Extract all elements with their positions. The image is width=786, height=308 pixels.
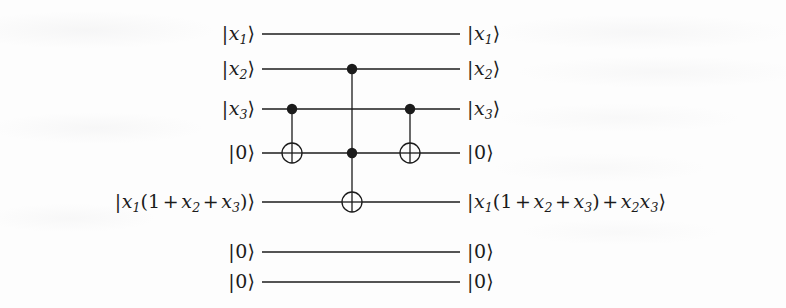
- circuit-canvas: [0, 0, 786, 308]
- quantum-circuit-figure: |x1⟩|x2⟩|x3⟩|0⟩|x1(1+x2+x3)⟩|0⟩|0⟩ |x1⟩|…: [0, 0, 786, 308]
- ket-right-x1: |x1⟩: [467, 24, 500, 46]
- ket-left-zero-1: |0⟩: [228, 143, 255, 162]
- toffoli-control-dot-0: [347, 64, 357, 74]
- ket-right-zero-1: |0⟩: [467, 143, 494, 162]
- ket-right-zero-3: |0⟩: [467, 272, 494, 291]
- toffoli-control-dot-1: [347, 148, 357, 158]
- ket-left-zero-3: |0⟩: [228, 272, 255, 291]
- ket-left-x2: |x2⟩: [222, 59, 255, 81]
- ket-right-x2: |x2⟩: [467, 59, 500, 81]
- ket-left-x3: |x3⟩: [222, 99, 255, 121]
- ket-right-expr: |x1(1+x2+x3)+x2x3⟩: [467, 192, 666, 214]
- cnot-1-control-dot-0: [287, 104, 297, 114]
- ket-right-zero-2: |0⟩: [467, 242, 494, 261]
- ket-left-zero-2: |0⟩: [228, 242, 255, 261]
- ket-left-x1: |x1⟩: [222, 24, 255, 46]
- ket-right-x3: |x3⟩: [467, 99, 500, 121]
- cnot-2-control-dot-0: [405, 104, 415, 114]
- ket-left-expr: |x1(1+x2+x3)⟩: [115, 192, 255, 214]
